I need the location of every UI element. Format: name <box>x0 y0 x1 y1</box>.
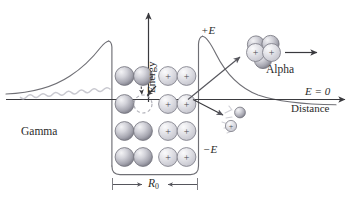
beta-emission-arrow <box>193 100 223 116</box>
radius-label-subscript: 0 <box>155 182 159 191</box>
svg-text:+: + <box>184 152 190 163</box>
nuclear-decay-diagram: ++ ++ ++ ++ + + <box>0 0 357 202</box>
svg-text:+: + <box>165 152 171 163</box>
svg-text:+: + <box>253 47 259 58</box>
zero-energy-label: E = 0 <box>305 86 330 97</box>
svg-text:+: + <box>184 99 190 110</box>
nucleon-vacancy <box>134 95 152 113</box>
coulomb-barrier-left <box>6 41 112 166</box>
svg-text:+: + <box>165 126 171 137</box>
gamma-label: Gamma <box>21 126 57 138</box>
nucleus-potential-well <box>112 166 199 175</box>
radius-label-main: R <box>148 177 155 189</box>
svg-text:+: + <box>269 47 275 58</box>
energy-axis-label: Energy <box>146 61 157 93</box>
svg-text:+: + <box>229 122 234 131</box>
positive-energy-label: +E <box>201 25 215 36</box>
gamma-ray-wave <box>20 88 110 99</box>
radius-label: R0 <box>148 178 159 191</box>
svg-text:+: + <box>165 71 171 82</box>
distance-axis-label: Distance <box>291 103 329 114</box>
svg-text:+: + <box>184 71 190 82</box>
svg-text:+: + <box>184 126 190 137</box>
negative-energy-label: −E <box>203 144 217 155</box>
emitted-particles: + <box>222 106 245 133</box>
alpha-label: Alpha <box>266 64 294 76</box>
nucleus-proton-group: ++ ++ ++ ++ <box>159 67 196 167</box>
svg-text:+: + <box>165 99 171 110</box>
diagram-canvas: ++ ++ ++ ++ + + <box>0 0 357 202</box>
